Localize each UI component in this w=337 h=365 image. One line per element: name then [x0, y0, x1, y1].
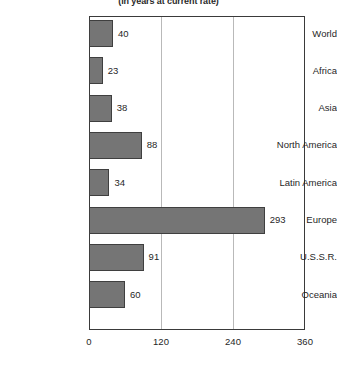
bar-latin-america [89, 169, 109, 196]
category-label: North America [251, 139, 337, 150]
bar-oceania [89, 281, 125, 308]
value-label: 34 [114, 177, 125, 188]
x-tick-label: 240 [213, 336, 253, 347]
category-label: Europe [251, 214, 337, 225]
value-label: 91 [149, 251, 160, 262]
category-label: Africa [251, 65, 337, 76]
value-label: 60 [130, 289, 141, 300]
category-label: U.S.S.R. [251, 251, 337, 262]
bar-u-s-s-r [89, 244, 144, 271]
bar-africa [89, 57, 103, 84]
bar-north-america [89, 132, 142, 159]
gridline-120 [161, 17, 162, 329]
category-label: World [251, 28, 337, 39]
bar-asia [89, 95, 112, 122]
bar-world [89, 20, 113, 47]
x-tick-label: 0 [69, 336, 109, 347]
value-label: 88 [147, 139, 158, 150]
value-label: 23 [108, 65, 119, 76]
value-label: 40 [118, 28, 129, 39]
category-label: Asia [251, 102, 337, 113]
gridline-240 [233, 17, 234, 329]
value-label: 38 [117, 102, 128, 113]
x-tick-label: 360 [285, 336, 325, 347]
chart-subtitle: (in years at current rate) [0, 0, 337, 6]
chart-page: (in years at current rate) 4023388834293… [0, 0, 337, 365]
category-label: Oceania [251, 289, 337, 300]
bar-europe [89, 207, 265, 234]
x-tick-label: 120 [141, 336, 181, 347]
category-label: Latin America [251, 177, 337, 188]
